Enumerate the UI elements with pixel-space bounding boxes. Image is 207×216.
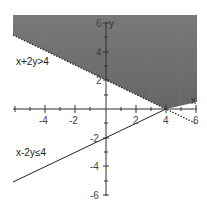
x-tick-label: 4 <box>163 115 169 126</box>
inequality-graph: x y -4 -2 2 4 6 6 4 2 -2 -4 -6 x+2y>4 x-… <box>0 0 207 216</box>
inequality-label-1: x+2y>4 <box>16 56 49 67</box>
x-tick-label: 2 <box>133 115 139 126</box>
inequality-label-2: x-2y≤4 <box>16 147 46 158</box>
x-tick-label: 6 <box>193 115 199 126</box>
y-axis-label: y <box>109 18 114 29</box>
y-tick-label: 4 <box>96 47 102 58</box>
y-tick-label: 2 <box>96 75 102 86</box>
x-tick-label: -4 <box>39 115 48 126</box>
y-tick-label: -6 <box>90 190 99 201</box>
y-tick-label: -4 <box>90 161 99 172</box>
x-axis-label: x <box>191 95 196 106</box>
y-tick-label: 6 <box>96 18 102 29</box>
y-tick-label: -2 <box>90 133 99 144</box>
x-tick-label: -2 <box>69 115 78 126</box>
